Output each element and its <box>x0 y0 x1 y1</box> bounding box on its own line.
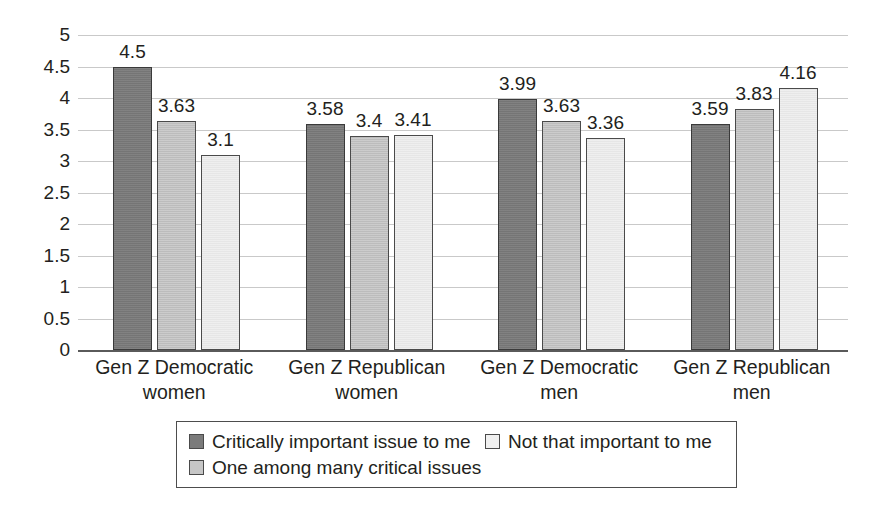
legend-swatch-medium-icon <box>189 460 204 475</box>
bar-value-label: 3.41 <box>382 110 445 129</box>
bar-value-label: 3.83 <box>723 84 786 103</box>
x-axis-tick-label: Gen Z Republicanwomen <box>271 355 464 405</box>
legend-label: Not that important to me <box>508 431 712 452</box>
legend-swatch-dark-icon <box>189 434 204 449</box>
y-axis: 54.543.532.521.510.50 <box>0 35 70 350</box>
y-axis-tick-label: 0 <box>0 340 70 359</box>
y-axis-tick-label: 0.5 <box>0 309 70 328</box>
bar[interactable] <box>306 124 345 350</box>
x-axis-tick-label: Gen Z Democraticmen <box>463 355 656 405</box>
legend-entry-not-that-important[interactable]: Not that important to me <box>485 431 712 452</box>
y-axis-tick-label: 2 <box>0 214 70 233</box>
bar-value-label: 4.16 <box>767 63 830 82</box>
x-axis-line <box>78 350 848 352</box>
bar-chart-figure: 54.543.532.521.510.50 4.53.633.13.583.43… <box>0 0 885 507</box>
legend-entry-critically-important[interactable]: Critically important issue to me <box>189 431 471 452</box>
bar-value-label: 3.63 <box>145 96 208 115</box>
legend-swatch-light-icon <box>485 434 500 449</box>
bar[interactable] <box>157 121 196 350</box>
y-axis-tick-label: 2.5 <box>0 183 70 202</box>
y-axis-tick-label: 4.5 <box>0 57 70 76</box>
y-axis-tick-label: 3 <box>0 151 70 170</box>
bar[interactable] <box>691 124 730 350</box>
chart-legend: Critically important issue to me One amo… <box>176 421 737 488</box>
bar[interactable] <box>350 136 389 350</box>
y-axis-tick-label: 5 <box>0 25 70 44</box>
y-axis-tick-label: 4 <box>0 88 70 107</box>
bar[interactable] <box>779 88 818 350</box>
bar-value-label: 4.5 <box>101 42 164 61</box>
bar-value-label: 3.99 <box>486 74 549 93</box>
legend-entry-one-among-many[interactable]: One among many critical issues <box>189 457 481 478</box>
bar[interactable] <box>586 138 625 350</box>
x-axis-category-labels: Gen Z DemocraticwomenGen Z Republicanwom… <box>78 355 848 417</box>
bar[interactable] <box>394 135 433 350</box>
bars-layer: 4.53.633.13.583.43.413.993.633.363.593.8… <box>78 35 848 350</box>
legend-label: Critically important issue to me <box>212 431 471 452</box>
bar[interactable] <box>498 99 537 350</box>
legend-label: One among many critical issues <box>212 457 481 478</box>
x-axis-tick-label: Gen Z Republicanmen <box>656 355 849 405</box>
bar[interactable] <box>735 109 774 350</box>
bar-value-label: 3.36 <box>574 113 637 132</box>
bar[interactable] <box>201 155 240 350</box>
bar[interactable] <box>542 121 581 350</box>
bar-value-label: 3.1 <box>189 130 252 149</box>
x-axis-tick-label: Gen Z Democraticwomen <box>78 355 271 405</box>
y-axis-tick-label: 1.5 <box>0 246 70 265</box>
y-axis-tick-label: 1 <box>0 277 70 296</box>
y-axis-tick-label: 3.5 <box>0 120 70 139</box>
